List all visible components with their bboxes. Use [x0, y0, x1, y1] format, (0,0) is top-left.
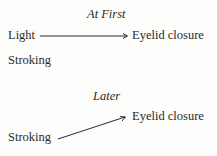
arrows — [0, 0, 217, 156]
arrow-stroking-to-eyelid — [58, 117, 126, 140]
arrow-light-to-eyelid — [40, 34, 128, 39]
